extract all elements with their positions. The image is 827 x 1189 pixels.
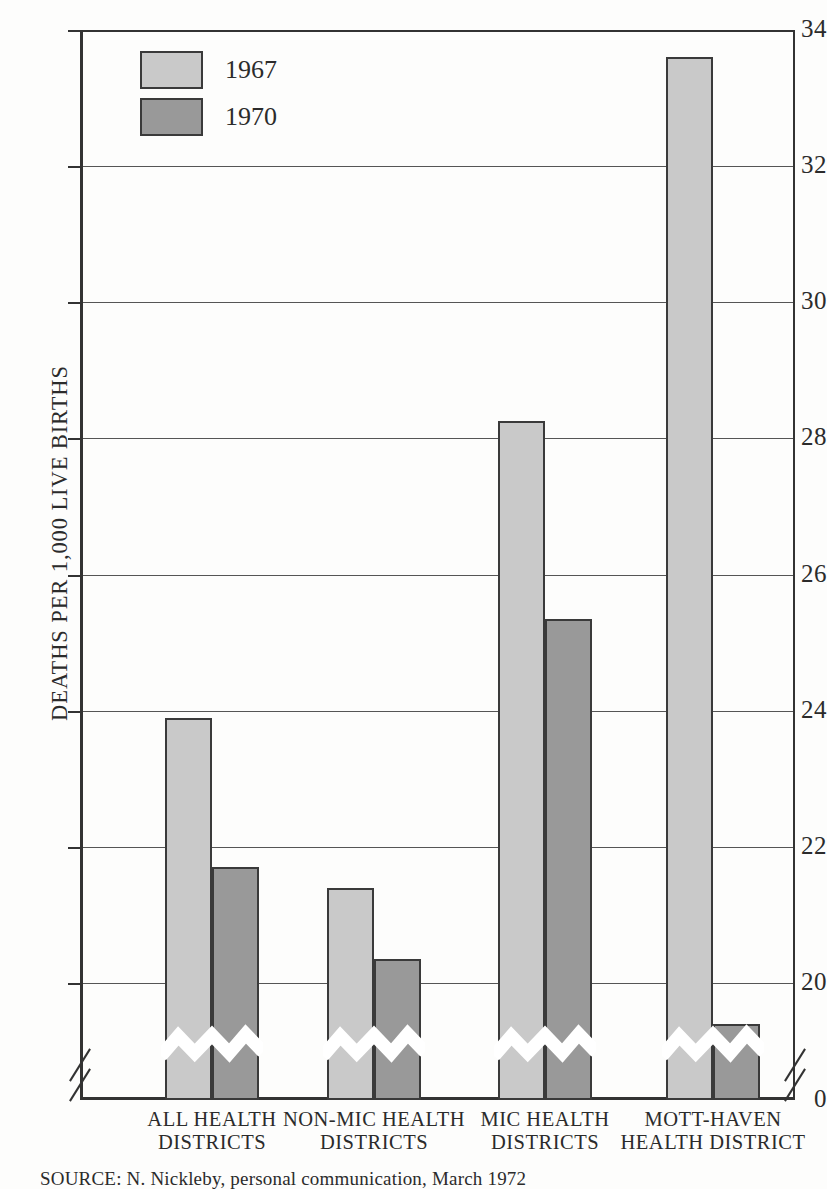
legend-swatch-1970 xyxy=(140,98,203,136)
bar-1967-group-3 xyxy=(666,57,713,1100)
source-note: SOURCE: N. Nickleby, personal communicat… xyxy=(40,1168,526,1189)
legend-label-1970: 1970 xyxy=(225,104,277,130)
bar-1970-group-3 xyxy=(713,1024,760,1100)
legend-swatch-1967 xyxy=(140,51,203,89)
legend-label-1967: 1967 xyxy=(225,57,277,83)
y-axis-break-left xyxy=(61,1050,101,1100)
bar-1970-group-2 xyxy=(545,619,592,1100)
category-label-3: MOTT-HAVEN HEALTH DISTRICT xyxy=(603,1108,823,1154)
legend-item-1967: 1967 xyxy=(140,48,277,92)
y-axis-title: DEATHS PER 1,000 LIVE BIRTHS xyxy=(47,223,73,863)
legend-item-1970: 1970 xyxy=(140,95,277,139)
bar-1970-group-0 xyxy=(212,867,259,1100)
bar-1967-group-0 xyxy=(165,718,212,1100)
y-axis-break-right xyxy=(776,1050,816,1100)
bar-1970-group-1 xyxy=(374,959,421,1100)
bar-1967-group-1 xyxy=(327,888,374,1100)
legend: 1967 1970 xyxy=(140,48,277,142)
bar-1967-group-2 xyxy=(498,421,545,1100)
